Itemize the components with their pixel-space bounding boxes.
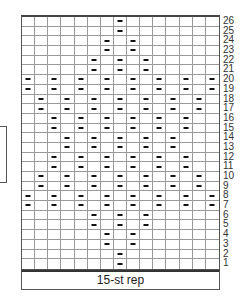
knit-stitch-cell: [206, 220, 219, 230]
knit-stitch-cell: [75, 27, 88, 37]
knit-stitch-cell: [101, 220, 114, 230]
knit-stitch-cell: [206, 172, 219, 182]
knit-stitch-cell: [127, 56, 140, 66]
knit-stitch-cell: [22, 259, 35, 269]
purl-stitch-cell: [193, 182, 206, 192]
knit-stitch-cell: [127, 143, 140, 153]
knit-stitch-cell: [166, 85, 179, 95]
knit-stitch-cell: [101, 259, 114, 269]
knit-stitch-cell: [35, 230, 48, 240]
knit-stitch-cell: [153, 104, 166, 114]
purl-stitch-cell: [35, 172, 48, 182]
purl-stitch-cell: [140, 95, 153, 105]
purl-stitch-cell: [22, 201, 35, 211]
purl-stitch-cell: [114, 182, 127, 192]
purl-stitch-cell: [166, 104, 179, 114]
knit-stitch-cell: [35, 114, 48, 124]
purl-stitch-cell: [140, 220, 153, 230]
purl-stitch-cell: [75, 85, 88, 95]
knit-stitch-cell: [22, 114, 35, 124]
knit-stitch-cell: [153, 230, 166, 240]
purl-stitch-cell: [88, 143, 101, 153]
knit-stitch-cell: [75, 104, 88, 114]
knit-stitch-cell: [140, 46, 153, 56]
purl-stitch-cell: [127, 85, 140, 95]
purl-stitch-cell: [101, 230, 114, 240]
knit-stitch-cell: [48, 133, 61, 143]
knit-stitch-cell: [166, 191, 179, 201]
purl-stitch-cell: [180, 153, 193, 163]
knit-stitch-cell: [193, 220, 206, 230]
knit-stitch-cell: [75, 36, 88, 46]
knit-stitch-cell: [153, 240, 166, 250]
knit-stitch-cell: [166, 46, 179, 56]
purl-stitch-cell: [127, 75, 140, 85]
knit-stitch-cell: [101, 172, 114, 182]
knit-stitch-cell: [75, 133, 88, 143]
knit-stitch-cell: [35, 65, 48, 75]
knit-stitch-cell: [127, 17, 140, 27]
purl-stitch-cell: [35, 182, 48, 192]
knit-stitch-cell: [61, 17, 74, 27]
knit-stitch-cell: [61, 27, 74, 37]
purl-stitch-cell: [193, 104, 206, 114]
knit-stitch-cell: [127, 259, 140, 269]
purl-stitch-cell: [101, 153, 114, 163]
knit-stitch-cell: [206, 124, 219, 134]
knit-stitch-cell: [48, 27, 61, 37]
purl-stitch-cell: [75, 153, 88, 163]
purl-stitch-cell: [127, 46, 140, 56]
side-key-box: [0, 126, 7, 183]
knit-stitch-cell: [22, 95, 35, 105]
knit-stitch-cell: [206, 95, 219, 105]
knit-stitch-cell: [206, 17, 219, 27]
knit-stitch-cell: [61, 153, 74, 163]
knit-stitch-cell: [88, 17, 101, 27]
purl-stitch-cell: [61, 104, 74, 114]
knit-stitch-cell: [35, 17, 48, 27]
knit-stitch-cell: [180, 104, 193, 114]
purl-stitch-cell: [101, 46, 114, 56]
knit-stitch-cell: [61, 220, 74, 230]
knit-stitch-cell: [75, 95, 88, 105]
knit-stitch-cell: [166, 153, 179, 163]
knit-stitch-cell: [180, 211, 193, 221]
purl-stitch-cell: [180, 191, 193, 201]
knit-stitch-cell: [153, 46, 166, 56]
purl-stitch-cell: [114, 250, 127, 260]
purl-stitch-cell: [153, 191, 166, 201]
purl-stitch-cell: [61, 182, 74, 192]
knit-stitch-cell: [153, 250, 166, 260]
purl-stitch-cell: [101, 36, 114, 46]
purl-stitch-cell: [88, 104, 101, 114]
knit-stitch-cell: [114, 230, 127, 240]
knit-stitch-cell: [22, 133, 35, 143]
purl-stitch-cell: [101, 114, 114, 124]
knit-stitch-cell: [166, 259, 179, 269]
knit-stitch-cell: [153, 172, 166, 182]
knit-stitch-cell: [101, 17, 114, 27]
knit-stitch-cell: [61, 46, 74, 56]
knit-stitch-cell: [35, 133, 48, 143]
purl-stitch-cell: [88, 211, 101, 221]
knit-stitch-cell: [48, 250, 61, 260]
knit-stitch-cell: [88, 250, 101, 260]
knit-stitch-cell: [180, 172, 193, 182]
knit-stitch-cell: [35, 36, 48, 46]
knit-stitch-cell: [127, 133, 140, 143]
knit-stitch-cell: [206, 133, 219, 143]
purl-stitch-cell: [193, 172, 206, 182]
knit-stitch-cell: [193, 162, 206, 172]
knit-stitch-cell: [140, 201, 153, 211]
purl-stitch-cell: [114, 65, 127, 75]
purl-stitch-cell: [88, 172, 101, 182]
knit-stitch-cell: [35, 201, 48, 211]
knit-stitch-cell: [166, 36, 179, 46]
knit-stitch-cell: [22, 182, 35, 192]
knit-stitch-cell: [75, 240, 88, 250]
knit-stitch-cell: [153, 211, 166, 221]
knit-stitch-cell: [180, 46, 193, 56]
knit-stitch-cell: [193, 85, 206, 95]
purl-stitch-cell: [22, 85, 35, 95]
knit-stitch-cell: [140, 36, 153, 46]
